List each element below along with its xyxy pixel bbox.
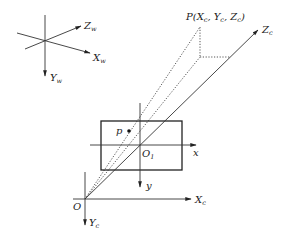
camera-y-label: Yc [89,217,100,230]
world-point-label: P(Xc, Yc, Zc) [185,11,245,24]
camera-z-axis [85,30,258,199]
camera-z-label: Zc [261,24,273,37]
ray-to-point [85,27,200,199]
world-x-label: Xw [92,52,106,65]
world-x-axis [17,33,90,53]
world-frame: Zw Xw Yw [17,15,106,85]
image-point [127,129,131,133]
projection-rays [85,27,230,199]
world-z-label: Zw [83,20,97,33]
camera-x-label: Xc [194,194,206,207]
image-y-label: y [145,180,152,191]
camera-model-diagram: Zw Xw Yw p O1 x y O Xc Yc Zc P(Xc, Yc, Z… [0,0,284,239]
image-plane [101,121,182,170]
image-origin-label: O1 [142,148,154,161]
image-point-label: p [116,125,123,136]
world-y-label: Yw [50,72,63,85]
ray-to-base [85,57,200,199]
image-x-label: x [193,147,199,158]
camera-origin-label: O [73,201,81,212]
